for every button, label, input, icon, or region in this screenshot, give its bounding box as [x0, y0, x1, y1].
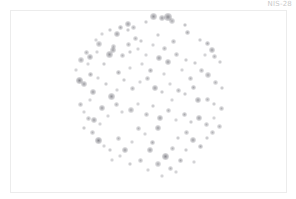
particle-dot [128, 107, 134, 113]
particle-dot [74, 68, 78, 72]
particle-dot [183, 23, 187, 27]
particle-dot [131, 25, 136, 30]
particle-dot [128, 50, 132, 54]
particle-dot [218, 60, 222, 64]
particle-dot [195, 97, 201, 103]
particle-dot [114, 102, 119, 107]
particle-dot [170, 98, 174, 102]
particle-dot [176, 88, 181, 93]
particle-dot [145, 76, 150, 81]
particle-dot [219, 106, 224, 111]
particle-dot [209, 47, 215, 53]
particle-dot [136, 126, 141, 131]
particle-dot [128, 66, 132, 70]
particle-dot [87, 54, 93, 60]
particle-dot [148, 68, 153, 73]
particle-dot [196, 115, 202, 121]
particle-dot [170, 146, 175, 151]
particle-dot [102, 62, 106, 66]
particle-dot [182, 112, 187, 117]
particle-dot [126, 42, 131, 47]
particle-dot [180, 68, 184, 72]
particle-dot [102, 144, 106, 148]
particle-dot [217, 124, 222, 129]
particle-dot [96, 41, 102, 47]
particle-dot [150, 140, 155, 145]
particle-dot [139, 39, 143, 43]
particle-dot [144, 20, 148, 24]
particle-dot [88, 98, 92, 102]
particle-dot [212, 54, 217, 59]
particle-dot [91, 117, 97, 123]
particle-dot [78, 102, 83, 107]
particle-dot [151, 43, 155, 47]
particle-dot [95, 137, 102, 144]
particle-dot [95, 50, 99, 54]
particle-dot [165, 59, 171, 65]
particle-dot [118, 154, 122, 158]
particle-dot [168, 82, 172, 86]
particle-dot [157, 115, 163, 121]
particle-dot [86, 116, 91, 121]
particle-dot [108, 148, 112, 152]
particle-dot [106, 114, 110, 118]
particle-dot [205, 72, 211, 78]
particle-dot [90, 89, 96, 95]
particle-dot [191, 85, 196, 90]
particle-dot [183, 92, 187, 96]
particle-dot [143, 132, 147, 136]
particle-dot [130, 140, 134, 144]
particle-dot [120, 110, 124, 114]
particle-dot [138, 158, 143, 163]
particle-dot [174, 170, 178, 174]
particle-dot [184, 130, 189, 135]
particle-dot [174, 118, 178, 122]
particle-dot [162, 46, 167, 51]
particle-dot [188, 76, 193, 81]
particle-dot [190, 137, 196, 143]
particle-dot [122, 78, 126, 82]
particle-dot [212, 102, 216, 106]
particle-dot [162, 153, 169, 160]
particle-dot [212, 116, 216, 120]
particle-dot [184, 148, 188, 152]
particle-dot [78, 57, 84, 63]
particle-dot [192, 160, 196, 164]
particle-dot [126, 28, 130, 32]
particle-dot [156, 33, 160, 37]
particle-dot [82, 110, 86, 114]
particle-cloud [0, 0, 296, 199]
particle-dot [82, 126, 86, 130]
particle-dot [122, 147, 128, 153]
particle-dot [110, 47, 116, 53]
particle-dot [147, 147, 153, 153]
particle-dot [171, 39, 176, 44]
particle-dot [166, 108, 171, 113]
particle-dot [108, 28, 112, 32]
particle-dot [178, 158, 183, 163]
particle-dot [174, 52, 179, 57]
particle-dot [168, 166, 173, 171]
particle-dot [144, 112, 149, 117]
particle-dot [90, 130, 95, 135]
particle-dot [120, 53, 125, 58]
particle-dot [130, 86, 135, 91]
particle-dot [140, 62, 144, 66]
particle-dot [86, 62, 90, 66]
particle-dot [160, 174, 164, 178]
particle-dot [185, 30, 190, 35]
particle-dot [136, 102, 140, 106]
particle-dot [162, 72, 166, 76]
particle-dot [176, 136, 180, 140]
particle-dot [193, 61, 197, 65]
particle-dot [88, 72, 93, 77]
particle-dot [169, 18, 175, 24]
particle-dot [133, 36, 138, 41]
particle-dot [100, 32, 104, 36]
particle-dot [138, 80, 142, 84]
particle-dot [210, 130, 215, 135]
particle-dot [198, 144, 203, 149]
particle-dot [155, 161, 161, 167]
particle-dot [116, 70, 121, 75]
particle-dot [116, 136, 121, 141]
